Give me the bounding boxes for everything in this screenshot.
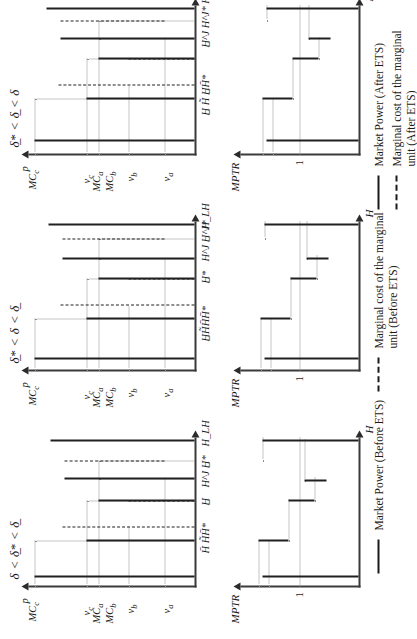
legend-row-after-market-power: Market Power (After ETS) xyxy=(372,42,386,209)
legend-key-dashed-after xyxy=(390,175,402,209)
legend-label-marginal-cost-after: Marginal cost of the marginal unit (Afte… xyxy=(390,30,417,166)
legend-row-after-marginal-cost: Marginal cost of the marginal unit (Afte… xyxy=(390,30,417,209)
legend-key-solid-before xyxy=(372,539,384,573)
legend-key-solid-after xyxy=(372,175,384,209)
legend-row-before-market-power: Market Power (Before ETS) xyxy=(372,399,386,573)
legend-label-market-power-after: Market Power (After ETS) xyxy=(372,42,386,166)
legend-label-marginal-cost-before: Marginal cost of the marginal unit (Befo… xyxy=(372,212,399,348)
legend-key-dashed-before xyxy=(372,357,384,391)
legend-label-market-power-before: Market Power (Before ETS) xyxy=(372,399,386,530)
legend-row-before-marginal-cost: Marginal cost of the marginal unit (Befo… xyxy=(372,212,399,391)
